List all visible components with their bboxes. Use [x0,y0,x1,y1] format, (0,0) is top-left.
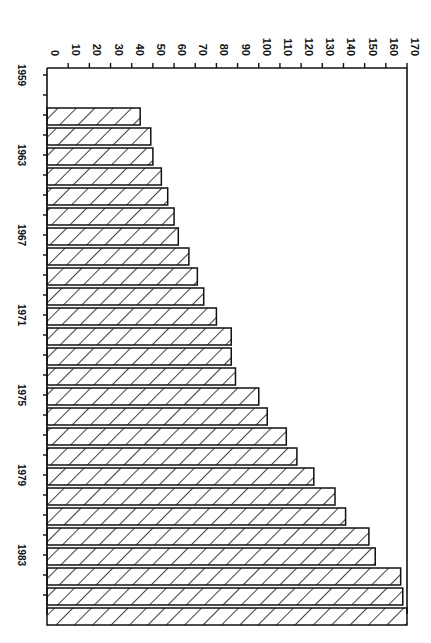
value-tick-label: 140 [345,38,357,56]
year-label: 1979 [16,464,27,487]
bar-1971 [47,308,216,325]
value-tick-label: 160 [388,38,400,56]
bar-1980 [47,488,335,505]
bar-1961 [47,108,140,125]
bar-1970 [47,288,204,305]
year-label: 1975 [16,384,27,407]
value-tick-label: 10 [70,44,82,56]
year-label: 1983 [16,544,27,567]
bar-1969 [47,268,197,285]
year-label: 1959 [16,64,27,87]
bars [47,108,407,625]
year-label: 1971 [16,304,27,327]
value-axis-ticks: 0102030405060708090100110120130140150160… [49,38,421,68]
value-tick-label: 170 [409,38,421,56]
value-tick-label: 30 [113,44,125,56]
value-tick-label: 120 [303,38,315,56]
year-label: 1967 [16,224,27,247]
value-tick-label: 110 [282,38,294,56]
value-tick-label: 40 [134,44,146,56]
category-axis-ticks: 1959196319671971197519791983 [16,64,47,595]
bar-1967 [47,228,178,245]
value-tick-label: 20 [91,44,103,56]
value-tick-label: 90 [240,44,252,56]
bar-1963 [47,148,153,165]
value-tick-label: 0 [49,50,61,56]
bar-1965 [47,188,168,205]
value-tick-label: 60 [176,44,188,56]
value-tick-label: 70 [197,44,209,56]
bar-1975 [47,388,259,405]
bar-1968 [47,248,189,265]
bar-1976 [47,408,267,425]
bar-1982 [47,528,369,545]
bar-1986 [47,608,407,625]
value-tick-label: 50 [155,44,167,56]
value-tick-label: 80 [218,44,230,56]
bar-1964 [47,168,161,185]
bar-1984 [47,568,401,585]
bar-1981 [47,508,346,525]
bar-1966 [47,208,174,225]
bar-1973 [47,348,231,365]
bar-1974 [47,368,235,385]
bar-chart: 0102030405060708090100110120130140150160… [0,0,431,643]
value-tick-label: 130 [324,38,336,56]
bar-1977 [47,428,286,445]
bar-1972 [47,328,231,345]
bar-1985 [47,588,403,605]
value-tick-label: 100 [261,38,273,56]
bar-1978 [47,448,297,465]
bar-1979 [47,468,314,485]
bar-1962 [47,128,151,145]
value-tick-label: 150 [367,38,379,56]
bar-1983 [47,548,375,565]
year-label: 1963 [16,144,27,167]
